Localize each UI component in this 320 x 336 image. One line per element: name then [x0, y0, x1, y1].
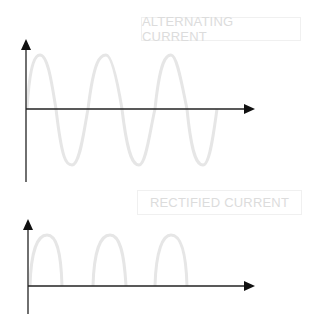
rectified-wave — [30, 235, 187, 286]
y-axis-arrow-icon — [23, 219, 33, 230]
x-axis-arrow-icon — [244, 104, 255, 114]
rectified-current-diagram — [23, 219, 255, 314]
y-axis-arrow-icon — [21, 39, 31, 50]
alternating-current-diagram — [21, 39, 255, 182]
x-axis-arrow-icon — [244, 281, 255, 291]
waveform-diagrams — [0, 0, 320, 336]
sine-wave — [27, 55, 217, 165]
